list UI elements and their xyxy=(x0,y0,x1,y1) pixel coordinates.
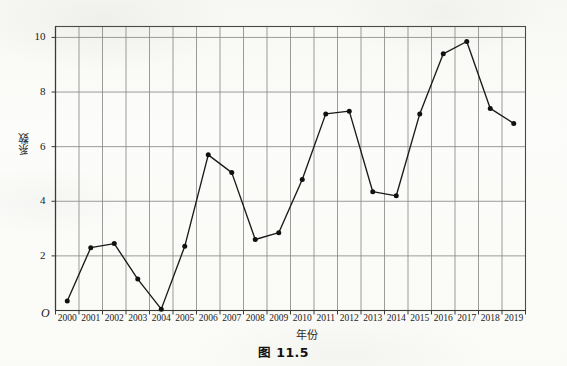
data-point-marker: 2018: 7.4 xyxy=(488,106,493,111)
figure-container: 系数 年份 O 图 11.5 246810 200020012002200320… xyxy=(0,0,567,366)
axis-lines xyxy=(52,27,526,315)
data-point-marker: 2001: 2.3 xyxy=(88,245,93,250)
data-point-marker: 2013: 4.35 xyxy=(370,189,375,194)
data-point-marker: 2000: 0.35 xyxy=(65,298,70,303)
data-point-marker: 2002: 2.45 xyxy=(112,241,117,246)
data-point-marker: 2010: 4.8 xyxy=(300,177,305,182)
data-point-marker: 2012: 7.3 xyxy=(347,109,352,114)
data-point-marker: 2006: 5.7 xyxy=(206,152,211,157)
data-point-marker: 2007: 5.05 xyxy=(229,170,234,175)
data-point-marker: 2014: 4.2 xyxy=(394,193,399,198)
data-point-marker: 2015: 7.2 xyxy=(417,111,422,116)
data-point-marker: 2009: 2.85 xyxy=(276,230,281,235)
data-point-marker: 2003: 1.15 xyxy=(135,277,140,282)
data-point-marker: 2011: 7.2 xyxy=(323,111,328,116)
data-point-marker: 2005: 2.35 xyxy=(182,244,187,249)
data-point-marker: 2019: 6.85 xyxy=(511,121,516,126)
data-point-marker: 2004: 0.05 xyxy=(159,307,164,312)
data-point-marker: 2008: 2.6 xyxy=(253,237,258,242)
data-point-marker: 2016: 9.4 xyxy=(441,51,446,56)
data-point-marker: 2017: 9.85 xyxy=(464,39,469,44)
line-chart-plot: 2000: 0.352001: 2.32002: 2.452003: 1.152… xyxy=(0,0,567,366)
grid-lines xyxy=(56,27,526,311)
